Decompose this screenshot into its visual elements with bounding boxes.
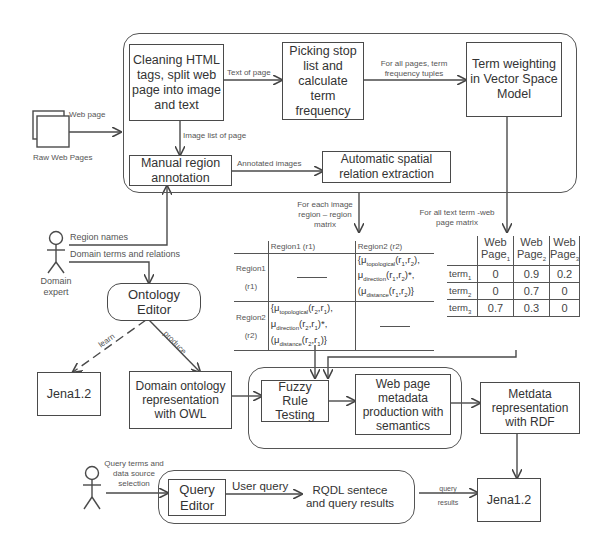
domain-expert-figure [47,232,65,274]
query-terms-line2: data source [113,469,155,478]
domain-expert-line2: expert [43,287,68,297]
term-row-1: term1 0 0.9 0.2 [447,266,580,283]
rqdl-line1: RQDL sentece [313,484,388,496]
term-web-page-matrix: WebPage1 WebPage2 WebPage3 term1 0 0.9 0… [447,236,580,317]
raw-web-page-front-icon [37,116,69,147]
term-matrix-edge-line2: page matrix [436,218,478,227]
domain-ontology-owl-box[interactable]: Domain ontology representation with OWL [129,371,232,429]
region-matrix-edge-label: For each image region – region matrix [290,200,360,230]
query-results-line1: query [439,485,457,492]
query-results-label: query results [428,482,468,510]
term-col-header-2: WebPage2 [514,236,550,266]
metadata-rdf-box[interactable]: Metdata representation with RDF [480,382,580,434]
web-page-metadata-production-box[interactable]: Web page metadata production with semant… [355,374,451,435]
term-cell: 0.3 [514,300,550,317]
term-row-2: term2 0 0.7 0 [447,283,580,300]
term-matrix-edge-line1: For all text term -web [419,208,494,217]
term-cell: 0.7 [478,300,514,317]
region-row-1-line2: (r1) [245,282,257,291]
query-terms-line1: Query terms and [104,459,164,468]
region-col-header-2: Region2 (r2) [355,241,434,253]
domain-expert-label: Domain expert [36,276,76,298]
term-col-header-1: WebPage1 [478,236,514,266]
query-terms-line3: selection [118,479,150,488]
term-cell: 0 [478,266,514,283]
term-cell: 0.7 [514,283,550,300]
jena-left-box[interactable]: Jena1.2 [37,372,101,416]
text-of-page-label: Text of page [227,68,271,78]
region-region-matrix: Region1 (r1) Region2 (r2) Region1 (r1) {… [234,241,434,351]
term-row-3: term3 0.7 0.3 0 [447,300,580,317]
region-row-2-line1: Region2 [236,313,266,322]
automatic-spatial-relation-box[interactable]: Automatic spatial relation extraction [322,151,451,183]
empty-dash [297,277,327,278]
region-matrix-edge-line1: For each image [297,200,353,209]
manual-region-annotation-box[interactable]: Manual region annotation [129,155,232,186]
term-col-header-3: WebPage3 [550,236,580,266]
region-names-label: Region names [70,232,128,243]
jena-right-box[interactable]: Jena1.2 [477,478,541,522]
term-row-header: term1 [447,266,478,283]
domain-terms-label: Domain terms and relations [70,249,180,260]
empty-dash [380,326,410,327]
term-frequency-tuples-label: For all pages, term frequency tuples [366,59,462,79]
term-cell: 0.9 [514,266,550,283]
fuzzy-rule-testing-box[interactable]: Fuzzy Rule Testing [261,380,329,422]
region-col-header-1: Region1 (r1) [268,241,355,253]
region-cell-r2-r1: {μtopological(r2,r1),μdirection(r2,r1)*,… [268,302,355,351]
web-page-edge-label: Web page [69,110,105,120]
region-row-1-line1: Region1 [236,264,266,273]
term-cell: 0 [478,283,514,300]
cleaning-html-box[interactable]: Cleaning HTML tags, split web page into … [129,44,224,121]
rqdl-line2: and query results [306,497,394,509]
region-cell-r1-r1 [268,253,355,302]
region-row-2-line2: (r2) [245,331,257,340]
term-weighting-box[interactable]: Term weighting in Vector Space Model [466,42,562,117]
annotated-images-label: Annotated images [237,159,302,169]
region-cell-r1-r2: {μtopological(r1,r2),μdirection(r1,r2)*,… [355,253,434,302]
image-list-label: Image list of page [183,131,246,141]
term-row-header: term2 [447,283,478,300]
term-row-header: term3 [447,300,478,317]
user-query-label: User query [232,480,288,493]
region-matrix-edge-line2: region – region matrix [298,210,351,229]
picking-stop-list-box[interactable]: Picking stop list and calculate term fre… [282,42,364,120]
term-cell: 0.2 [550,266,580,283]
region-cell-r2-r2 [355,302,434,351]
rqdl-label[interactable]: RQDL sentece and query results [300,484,400,510]
raw-web-pages-label: Raw Web Pages [33,153,92,163]
region-row-header-1: Region1 (r1) [234,253,268,302]
term-cell: 0 [550,283,580,300]
query-editor-box[interactable]: Query Editor [168,479,226,516]
term-cell: 0 [550,300,580,317]
ontology-editor-box[interactable]: Ontology Editor [107,283,201,321]
term-matrix-edge-label: For all text term -web page matrix [412,208,502,228]
domain-expert-line1: Domain [40,276,71,286]
region-row-header-2: Region2 (r2) [234,302,268,351]
query-results-line2: results [438,499,459,506]
